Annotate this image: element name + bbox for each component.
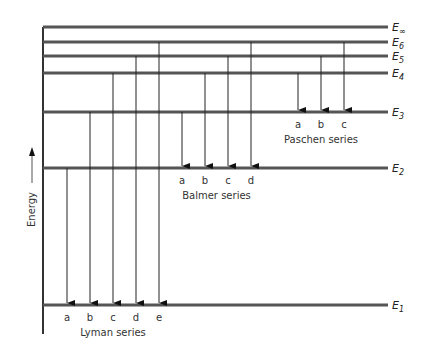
energy-axis-label: Energy: [26, 147, 37, 227]
transition-arrows: abcdeabcdabc: [64, 42, 347, 323]
transition-label: a: [64, 312, 70, 323]
transition-label: b: [318, 119, 324, 130]
transition-label: e: [156, 312, 162, 323]
level-label: E5: [392, 50, 404, 65]
transition-label: c: [341, 119, 347, 130]
energy-label-text: Energy: [26, 192, 37, 227]
transition-label: b: [87, 312, 93, 323]
energy-level-E2: E2: [43, 162, 404, 177]
level-label: E2: [392, 162, 404, 177]
level-label: E3: [392, 106, 404, 121]
level-label: E6: [392, 36, 404, 51]
energy-level-E4: E4: [43, 67, 404, 82]
energy-level-E5: E5: [43, 50, 404, 65]
series-labels: Lyman seriesBalmer seriesPaschen series: [80, 134, 358, 338]
transition-label: d: [133, 312, 139, 323]
transition-label: a: [295, 119, 301, 130]
energy-level-E3: E3: [43, 106, 404, 121]
energy-level-E6: E6: [43, 36, 404, 51]
level-label: E1: [392, 299, 404, 314]
energy-level-diagram: Energy E∞E6E5E4E3E2E1 abcdeabcdabc Lyman…: [0, 0, 431, 349]
level-label: E∞: [392, 21, 406, 36]
series-name: Paschen series: [284, 134, 358, 145]
level-label: E4: [392, 67, 404, 82]
transition-label: d: [248, 175, 254, 186]
energy-levels: E∞E6E5E4E3E2E1: [43, 21, 406, 314]
energy-level-E∞: E∞: [43, 21, 406, 36]
transition-label: c: [110, 312, 116, 323]
series-name: Balmer series: [182, 190, 251, 201]
series-balmer-series: abcd: [179, 42, 254, 186]
series-name: Lyman series: [80, 327, 146, 338]
transition-label: c: [225, 175, 231, 186]
energy-level-E1: E1: [43, 299, 404, 314]
transition-label: a: [179, 175, 185, 186]
transition-label: b: [202, 175, 208, 186]
series-lyman-series: abcde: [64, 42, 162, 323]
